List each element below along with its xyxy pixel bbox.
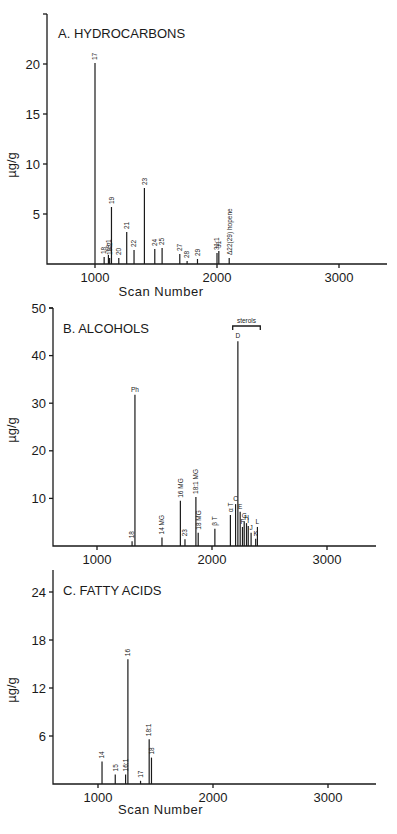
x-tick-label: 2000 — [203, 270, 232, 285]
peak-label: 19 — [108, 196, 115, 204]
x-axis-label: Scan Number — [118, 802, 203, 817]
panel-title: C. FATTY ACIDS — [63, 583, 162, 598]
peak-label: 15 — [112, 764, 119, 772]
peak-label: 21 — [123, 221, 130, 229]
peak-label: 16 — [124, 649, 131, 657]
peak-label: 31 — [215, 240, 222, 248]
peak-label: 17 — [91, 52, 98, 60]
y-axis-label: µg/g — [4, 152, 19, 178]
peak-label: β T — [211, 516, 219, 526]
peak-label: 27 — [176, 243, 183, 251]
y-tick-label: 6 — [39, 729, 46, 744]
peak-label: 24 — [151, 238, 158, 246]
sterols-bracket — [233, 326, 261, 330]
peak-label: 18 MG — [195, 510, 202, 530]
peak-label: 18 — [148, 747, 155, 755]
peak-label: J — [249, 524, 252, 531]
peak-label: 14 — [98, 751, 105, 759]
peak-label: 16 MG — [177, 478, 184, 498]
panel-title: A. HYDROCARBONS — [58, 26, 185, 41]
peak-label: 20 — [115, 247, 122, 255]
y-tick-label: 18 — [32, 633, 46, 648]
y-tick-label: 20 — [26, 57, 40, 72]
x-tick-label: 2000 — [198, 552, 227, 567]
axes — [47, 14, 387, 264]
y-tick-label: 12 — [32, 681, 46, 696]
peak-label: 18:1 MG — [192, 469, 199, 494]
peak-label: 23 — [181, 529, 188, 537]
peak-label: L — [256, 518, 260, 525]
peak-label: 22 — [130, 239, 137, 247]
peak-label: E — [238, 503, 243, 510]
peak-label: 29 — [194, 248, 201, 256]
x-tick-label: 3000 — [325, 270, 354, 285]
peak-label: 17 — [137, 770, 144, 778]
x-axis-label: Scan Number — [119, 284, 204, 299]
x-tick-label: 3000 — [314, 790, 343, 805]
peak-label: 25 — [158, 237, 165, 245]
peak-label: 18 — [128, 531, 135, 539]
y-tick-label: 50 — [32, 301, 46, 316]
y-tick-label: 24 — [32, 585, 46, 600]
y-tick-label: 30 — [32, 396, 46, 411]
peak-label: α T — [227, 502, 234, 512]
y-tick-label: 40 — [32, 348, 46, 363]
peak-label: Ph — [131, 386, 139, 393]
panel-title: B. ALCOHOLS — [63, 321, 149, 336]
peak-label: 23 — [141, 177, 148, 185]
y-tick-label: 5 — [33, 207, 40, 222]
x-tick-label: 3000 — [313, 552, 342, 567]
y-tick-label: 10 — [32, 491, 46, 506]
peak-label: 18:1 — [145, 723, 152, 736]
x-tick-label: 1000 — [81, 270, 110, 285]
chromatogram-figure: 5101520100020003000A. HYDROCARBONSµg/gSc… — [0, 0, 397, 834]
x-tick-label: 1000 — [84, 790, 113, 805]
x-tick-label: 1000 — [83, 552, 112, 567]
peak-label: D — [236, 332, 241, 339]
y-axis-label: µg/g — [4, 677, 19, 703]
peak-label: 28 — [183, 250, 190, 258]
peak-label: 14 MG — [158, 515, 165, 535]
y-tick-label: 15 — [26, 107, 40, 122]
y-axis-label: µg/g — [4, 417, 19, 443]
axes — [53, 308, 376, 546]
peak-label: Δ22(29) hopene — [226, 208, 234, 255]
y-tick-label: 10 — [26, 157, 40, 172]
sterols-annotation: sterols — [237, 317, 257, 324]
y-tick-label: 20 — [32, 443, 46, 458]
